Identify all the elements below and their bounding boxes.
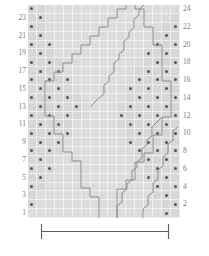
knitting-chart-figure: 232119171513119753124222018161412108642 (0, 0, 209, 256)
repeat-bracket (0, 0, 209, 256)
